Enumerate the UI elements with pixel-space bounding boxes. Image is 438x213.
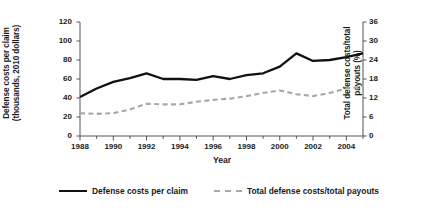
legend-swatch-dashed-line-icon: [214, 190, 242, 192]
data-series: [80, 53, 363, 113]
legend-item-defense-costs: Defense costs per claim: [59, 186, 188, 196]
legend-swatch-solid-line-icon: [59, 190, 87, 192]
chart-legend: Defense costs per claim Total defense co…: [0, 186, 438, 196]
series-line-1: [80, 87, 363, 114]
legend-item-total-defense-ratio: Total defense costs/total payouts: [214, 186, 379, 196]
legend-label-total-defense-ratio: Total defense costs/total payouts: [247, 186, 379, 196]
legend-label-defense-costs: Defense costs per claim: [92, 186, 188, 196]
series-line-0: [80, 53, 363, 97]
plot-area: [0, 0, 438, 213]
chart-container: Defense costs per claim (thousands, 2010…: [0, 0, 438, 213]
